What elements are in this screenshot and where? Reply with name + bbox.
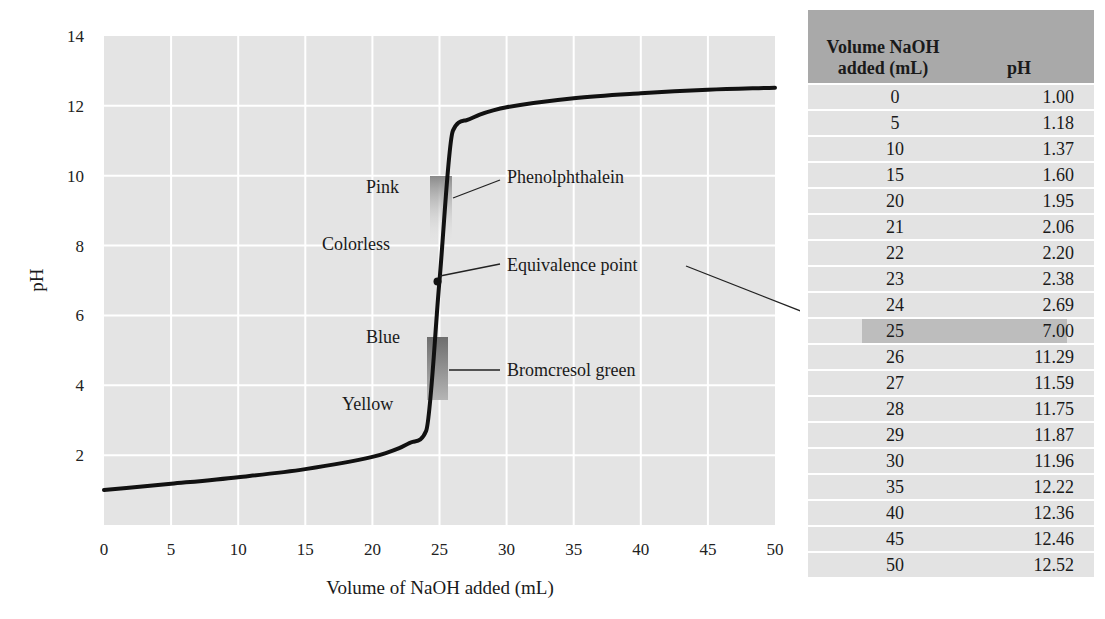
- table-row: 4012.36: [808, 501, 1094, 527]
- colorless-label: Colorless: [322, 234, 390, 254]
- cell-ph: 12.36: [974, 503, 1074, 524]
- table-row: 2611.29: [808, 345, 1094, 371]
- cell-volume: 28: [808, 399, 974, 420]
- cell-volume: 0: [808, 87, 974, 108]
- table-row: 242.69: [808, 293, 1094, 319]
- cell-ph: 12.22: [974, 477, 1074, 498]
- table-row: 2711.59: [808, 371, 1094, 397]
- yellow-label: Yellow: [342, 394, 393, 414]
- cell-ph: 1.95: [974, 191, 1074, 212]
- y-tick-label: 12: [67, 97, 84, 116]
- bromcresol-green-label: Bromcresol green: [507, 360, 635, 380]
- table-row: 222.20: [808, 241, 1094, 267]
- y-tick-label: 14: [67, 27, 85, 46]
- x-tick-label: 0: [100, 540, 109, 559]
- header-volume-line2: added (mL): [808, 58, 958, 79]
- cell-volume: 21: [808, 217, 974, 238]
- cell-ph: 11.29: [974, 347, 1074, 368]
- table-row: 51.18: [808, 111, 1094, 137]
- cell-ph: 2.20: [974, 243, 1074, 264]
- cell-ph: 11.87: [974, 425, 1074, 446]
- cell-ph: 2.06: [974, 217, 1074, 238]
- cell-ph: 12.52: [974, 555, 1074, 576]
- cell-volume: 26: [808, 347, 974, 368]
- table-row: 232.38: [808, 267, 1094, 293]
- x-tick-label: 10: [230, 540, 247, 559]
- table-row: 212.06: [808, 215, 1094, 241]
- y-tick-label: 2: [76, 446, 85, 465]
- header-ph: pH: [958, 58, 1072, 79]
- table-row: 3512.22: [808, 475, 1094, 501]
- cell-ph: 1.18: [974, 113, 1074, 134]
- cell-ph: 11.96: [974, 451, 1074, 472]
- cell-volume: 20: [808, 191, 974, 212]
- table-row: 2911.87: [808, 423, 1094, 449]
- cell-volume: 15: [808, 165, 974, 186]
- table-row: 5012.52: [808, 553, 1094, 579]
- header-volume-line1: Volume NaOH: [808, 37, 958, 58]
- table-header: Volume NaOH added (mL) pH: [808, 10, 1094, 85]
- y-tick-label: 10: [67, 167, 84, 186]
- table-body: 01.0051.18101.37151.60201.95212.06222.20…: [808, 85, 1094, 579]
- phenolphthalein-range-bar: [430, 176, 452, 244]
- table-row: 4512.46: [808, 527, 1094, 553]
- cell-volume: 50: [808, 555, 974, 576]
- cell-volume: 27: [808, 373, 974, 394]
- cell-volume: 25: [808, 321, 974, 342]
- y-tick-label: 4: [76, 376, 85, 395]
- x-tick-label: 50: [767, 540, 784, 559]
- cell-volume: 29: [808, 425, 974, 446]
- titration-data-table: Volume NaOH added (mL) pH 01.0051.18101.…: [808, 10, 1094, 579]
- x-tick-label: 35: [565, 540, 582, 559]
- cell-volume: 30: [808, 451, 974, 472]
- header-volume: Volume NaOH added (mL): [808, 37, 958, 79]
- titration-chart: 05101520253035404550 2468101214 Pink Col…: [0, 0, 800, 619]
- y-tick-label: 8: [76, 237, 85, 256]
- x-tick-label: 40: [632, 540, 649, 559]
- cell-ph: 2.69: [974, 295, 1074, 316]
- table-row-highlighted: 257.00: [808, 319, 1094, 345]
- cell-ph: 7.00: [974, 321, 1074, 342]
- cell-volume: 5: [808, 113, 974, 134]
- table-row: 201.95: [808, 189, 1094, 215]
- x-tick-label: 20: [364, 540, 381, 559]
- pink-label: Pink: [366, 177, 399, 197]
- x-tick-label: 45: [699, 540, 716, 559]
- x-tick-label: 30: [498, 540, 515, 559]
- y-axis-title: pH: [26, 268, 47, 292]
- y-tick-label: 6: [76, 306, 85, 325]
- equivalence-point-label: Equivalence point: [507, 255, 637, 275]
- x-tick-label: 25: [431, 540, 448, 559]
- x-axis-ticks: 05101520253035404550: [100, 540, 784, 559]
- cell-ph: 11.59: [974, 373, 1074, 394]
- cell-ph: 1.00: [974, 87, 1074, 108]
- x-axis-title: Volume of NaOH added (mL): [326, 577, 554, 599]
- table-row: 101.37: [808, 137, 1094, 163]
- cell-ph: 1.37: [974, 139, 1074, 160]
- cell-ph: 12.46: [974, 529, 1074, 550]
- cell-volume: 40: [808, 503, 974, 524]
- table-row: 2811.75: [808, 397, 1094, 423]
- x-tick-label: 5: [167, 540, 176, 559]
- blue-label: Blue: [366, 327, 400, 347]
- cell-ph: 1.60: [974, 165, 1074, 186]
- cell-volume: 22: [808, 243, 974, 264]
- equivalence-point-marker: [434, 278, 442, 286]
- x-tick-label: 15: [297, 540, 314, 559]
- cell-ph: 2.38: [974, 269, 1074, 290]
- cell-volume: 35: [808, 477, 974, 498]
- cell-volume: 23: [808, 269, 974, 290]
- cell-volume: 10: [808, 139, 974, 160]
- phenolphthalein-label: Phenolphthalein: [507, 167, 624, 187]
- table-row: 3011.96: [808, 449, 1094, 475]
- y-axis-ticks: 2468101214: [67, 27, 85, 465]
- cell-volume: 45: [808, 529, 974, 550]
- cell-volume: 24: [808, 295, 974, 316]
- cell-ph: 11.75: [974, 399, 1074, 420]
- table-row: 151.60: [808, 163, 1094, 189]
- table-row: 01.00: [808, 85, 1094, 111]
